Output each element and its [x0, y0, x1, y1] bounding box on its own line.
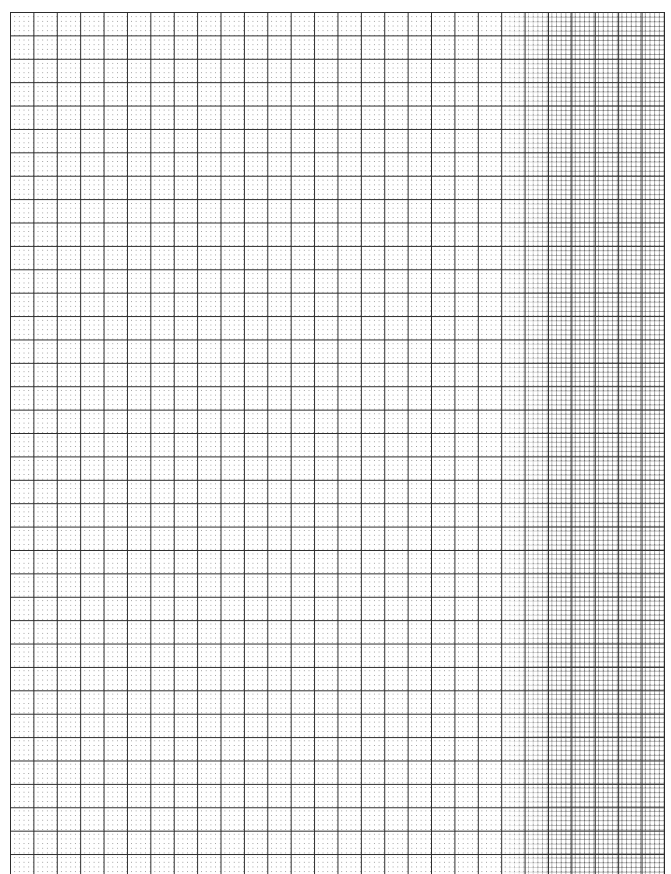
scanned-page: [0, 0, 671, 874]
graph-paper-grid: [10, 12, 665, 874]
